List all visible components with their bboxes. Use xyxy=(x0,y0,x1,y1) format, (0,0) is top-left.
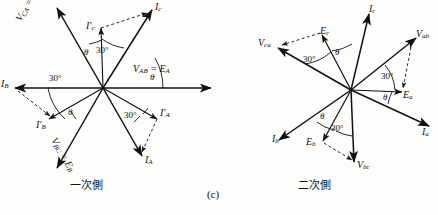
vector-ia-primary xyxy=(103,88,142,156)
label-ea-secondary: Ea xyxy=(403,90,413,101)
label-theta-c-primary: θ xyxy=(84,48,88,57)
label-ib-secondary: Ib xyxy=(272,134,279,145)
label-vca-secondary: Vca xyxy=(258,38,271,49)
label-theta-a-secondary: θ xyxy=(383,93,387,102)
label-30-a-primary: 30° xyxy=(124,111,137,120)
label-ec-secondary: Ec xyxy=(320,26,329,37)
label-30-b-secondary: 30° xyxy=(331,124,344,133)
label-ic-prime-primary: I′c xyxy=(86,21,95,32)
angle-arc-theta-a-secondary xyxy=(388,92,392,104)
figure-number: (c) xyxy=(207,188,219,200)
primary-phasor-group xyxy=(15,8,211,168)
label-30-a-secondary: 30° xyxy=(381,72,394,81)
label-theta-a-primary: θ xyxy=(150,73,154,82)
vector-ea-secondary xyxy=(351,90,402,92)
label-ic-primary: Ic xyxy=(155,2,161,13)
connector-ic-prime-to-ic xyxy=(101,13,147,28)
connector-ec-to-vca xyxy=(282,33,320,45)
label-vbc-secondary: Vbc xyxy=(357,160,370,171)
connector-eb-to-vbc xyxy=(324,143,352,160)
vector-ic-prime-primary xyxy=(101,28,103,88)
label-30-c-primary: 30° xyxy=(96,46,109,55)
label-theta-b-secondary: θ xyxy=(320,112,324,121)
label-theta-c-secondary: θ xyxy=(335,48,339,57)
connector-ia-prime-to-ia xyxy=(142,119,157,152)
label-ib-prime-primary: I′B xyxy=(36,120,46,131)
label-vab-secondary: Vab xyxy=(416,29,429,40)
label-eb-secondary: Eb xyxy=(306,137,316,148)
label-theta-b-primary: θ xyxy=(68,108,72,117)
angle-arc-theta-c-primary xyxy=(89,40,102,44)
vector-vbc-secondary xyxy=(351,90,354,162)
label-ib-primary: IB xyxy=(1,79,9,90)
connector-ib-to-ib-prime xyxy=(18,91,50,116)
label-ia-primary: IA xyxy=(145,155,153,166)
figure-container: VAB = EA VCA = EC VBC = EB IB Ic IA I′A … xyxy=(0,0,438,215)
label-ia-secondary: Ia xyxy=(422,127,429,138)
label-ia-prime-primary: I′A xyxy=(160,108,170,119)
caption-secondary: 二次側 xyxy=(298,176,331,192)
label-ic-secondary: Ic xyxy=(369,4,375,15)
label-30-c-secondary: 30° xyxy=(303,55,316,64)
caption-primary: 一次側 xyxy=(70,176,103,192)
vector-eb-secondary xyxy=(323,90,351,141)
secondary-phasor-group xyxy=(278,14,429,162)
connector-vab-to-ea xyxy=(403,42,412,88)
phasor-diagram-canvas xyxy=(0,0,438,215)
label-30-b-primary: 30° xyxy=(49,74,62,83)
vector-ic-primary xyxy=(103,10,152,88)
